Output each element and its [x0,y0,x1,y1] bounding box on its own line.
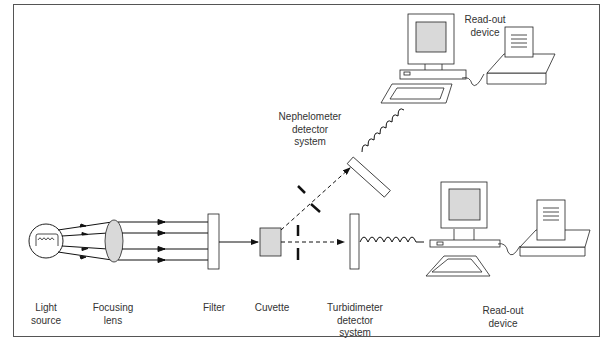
label-light-source: Light source [22,302,70,327]
printer-icon [520,200,590,256]
turbidimeter-detector-icon [350,214,359,269]
label-nephelometer: Nephelometer detector system [273,111,347,149]
cable-coil-icon [362,109,404,152]
diagram-canvas [0,0,606,352]
computer-icon [426,182,500,276]
cable-coil-icon [360,237,424,242]
label-cuvette: Cuvette [250,302,294,315]
label-filter: Filter [197,302,231,315]
printer-cable-icon [498,244,520,255]
scattered-beam-icon [281,168,350,230]
light-source-icon [29,224,63,258]
computer-icon [381,14,466,103]
filter-icon [208,214,219,269]
label-turbidimeter: Turbidimeter detector system [322,302,388,340]
label-readout-top: Read-out device [460,14,510,39]
slit-icon [298,186,320,260]
light-rays-icon [58,222,112,260]
label-readout-bottom: Read-out device [476,305,530,330]
focusing-lens-icon [105,220,123,262]
cuvette-icon [260,228,281,256]
nephelometer-detector-icon [347,157,390,197]
focused-rays-icon [118,220,208,263]
label-focusing-lens: Focusing lens [88,302,138,327]
